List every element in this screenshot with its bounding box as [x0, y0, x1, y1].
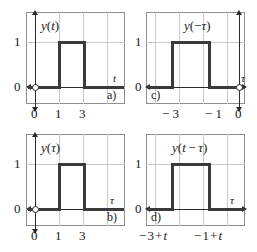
panel-b-signal-segment-right [83, 208, 124, 211]
panel-b-y-tick-0: 0 [14, 202, 21, 215]
panel-c-origin-open-circle [236, 84, 243, 91]
panel-b-y-tick-1: 1 [14, 157, 21, 170]
panel-c-axis-name: τ [241, 73, 245, 84]
panel-c-function-label: y(−τ) [184, 19, 210, 32]
panel-c: y(−τ) τ 1 0 − 3 − 1 0 c) [132, 0, 257, 126]
panel-a-function-label: y(t) [41, 19, 59, 32]
panel-a-x-tick-3: 3 [79, 107, 86, 120]
panel-b-x-tick-1: 1 [55, 229, 62, 242]
panel-a-y-tick-0: 0 [14, 80, 21, 93]
panel-a: y(t) t 1 0 0 1 3 a) [0, 0, 132, 126]
panel-c-y-axis [239, 14, 240, 108]
panel-a-tag: a) [107, 89, 116, 101]
panel-a-signal-top [58, 41, 86, 44]
panel-a-origin-open-circle [32, 84, 39, 91]
panel-c-gridline-v2 [179, 12, 180, 104]
figure-four-panel-signal-plots: y(t) t 1 0 0 1 3 a) y(−τ) τ 1 [0, 0, 257, 252]
panel-d-x-tick-neg1-plus-t-text: − 1 + t [194, 228, 222, 243]
panel-a-signal-fall [83, 41, 86, 89]
panel-b-function-label: y(τ) [41, 141, 60, 154]
panel-b-axis-name: τ [110, 195, 114, 206]
panel-d-y-tick-0: 0 [135, 202, 142, 215]
panel-c-y-tick-1: 1 [135, 35, 142, 48]
panel-b-signal-fall [83, 163, 86, 211]
panel-d-signal-top [171, 163, 211, 166]
panel-c-y-tick-0: 0 [135, 80, 142, 93]
panel-b-origin-open-circle [32, 206, 39, 213]
panel-d-gridline-v4 [227, 134, 228, 226]
panel-c-gridline-v4 [227, 12, 228, 104]
panel-b: y(τ) τ 1 0 0 1 3 b) [0, 126, 132, 252]
panel-b-signal-rise [58, 163, 61, 211]
panel-d-signal-rise [171, 163, 174, 211]
panel-b-x-tick-0: 0 [31, 229, 38, 242]
panel-c-x-tick-0: 0 [235, 107, 242, 120]
panel-a-axis-name: t [113, 73, 116, 84]
panel-d-x-tick-neg1-plus-t: − 1 + t [194, 229, 222, 242]
panel-c-signal-rise [171, 41, 174, 89]
panel-c-x-tick-neg3: − 3 [162, 107, 179, 120]
panel-a-y-axis-arrow-up [32, 10, 38, 15]
panel-a-x-tick-0: 0 [31, 107, 38, 120]
panel-d-signal-fall [208, 163, 211, 211]
panel-c-signal-fall [208, 41, 211, 89]
panel-b-x-tick-3: 3 [79, 229, 86, 242]
panel-b-y-axis-arrow-up [32, 132, 38, 137]
panel-a-signal-segment-right [83, 86, 124, 89]
panel-b-tag: b) [107, 211, 117, 223]
panel-c-tag: c) [151, 89, 160, 101]
panel-d-function-label: y(t − τ) [172, 141, 207, 154]
panel-c-y-axis-arrow-up [236, 10, 242, 15]
panel-c-signal-top [171, 41, 211, 44]
panel-a-signal-rise [58, 41, 61, 89]
panel-a-x-tick-1: 1 [55, 107, 62, 120]
panel-b-signal-top [58, 163, 86, 166]
panel-d-signal-segment-right [208, 208, 244, 211]
panel-d-y-tick-1: 1 [135, 157, 142, 170]
panel-d-x-tick-neg3-plus-t-text: − 3 + t [139, 228, 167, 243]
panel-c-x-tick-neg1: − 1 [205, 107, 222, 120]
panel-b-y-axis [35, 136, 36, 230]
panel-d: y(t − τ) τ 1 0 − 3 + t − 1 + t d) [132, 126, 257, 252]
panel-a-y-tick-1: 1 [14, 35, 21, 48]
panel-d-axis-name: τ [230, 195, 234, 206]
panel-d-x-tick-neg3-plus-t: − 3 + t [139, 229, 167, 242]
panel-a-y-axis [35, 14, 36, 108]
panel-d-tag: d) [151, 211, 161, 223]
